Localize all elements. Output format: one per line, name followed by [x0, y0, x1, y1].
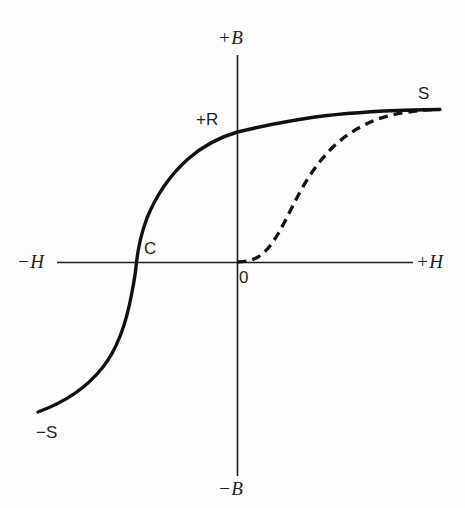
- saturation-negative-label: −S: [36, 424, 57, 441]
- initial-magnetization-dashed-curve: [238, 110, 438, 263]
- axis-label-negative-b: −B: [218, 479, 243, 498]
- axis-label-positive-b: +B: [218, 28, 243, 47]
- saturation-positive-label: S: [418, 85, 429, 102]
- axis-label-positive-h: +H: [416, 252, 444, 271]
- origin-label: 0: [239, 269, 248, 286]
- bh-curve-canvas: [0, 0, 465, 508]
- bh-hysteresis-figure: +B −B −H +H +R 0 C S −S: [0, 0, 465, 508]
- axis-label-negative-h: −H: [17, 252, 45, 271]
- coercivity-label: C: [144, 240, 156, 257]
- remanence-label: +R: [196, 111, 218, 128]
